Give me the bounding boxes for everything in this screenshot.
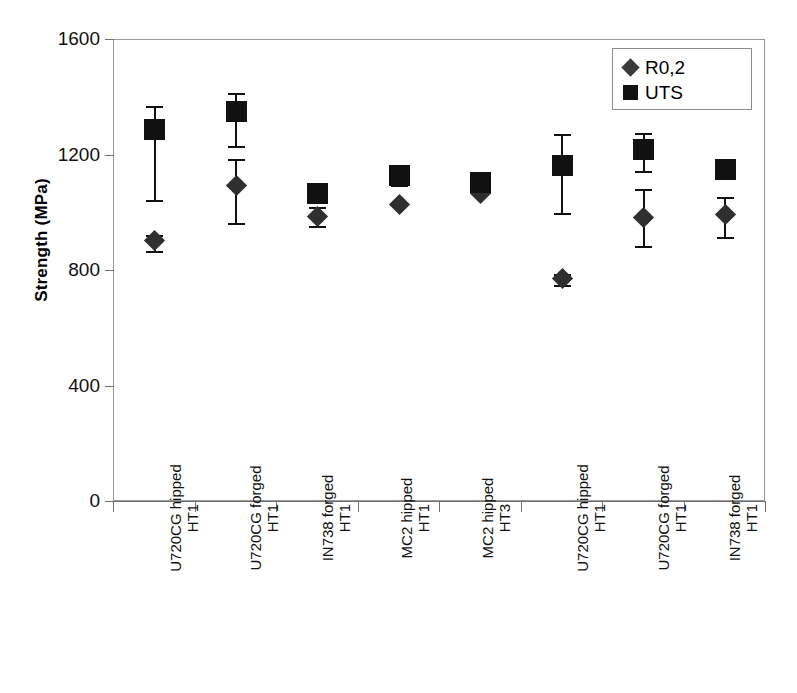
error-bar-cap-bottom (228, 223, 245, 225)
error-bar-cap-bottom (146, 200, 163, 202)
x-axis-category-label: IN738 forgedHT1 (276, 512, 358, 553)
y-axis-tick (105, 501, 114, 502)
chart-legend: R0,2 UTS (612, 48, 752, 110)
x-axis-category-label: U720CG forgedHT1 (602, 512, 684, 553)
error-bar-cap-bottom (635, 246, 652, 248)
error-bar-cap-bottom (228, 146, 245, 148)
x-axis-tick (521, 502, 522, 512)
diamond-marker-icon (621, 58, 639, 76)
square-marker-icon (633, 139, 654, 160)
x-axis-tick (439, 502, 440, 512)
error-bar-cap-top (717, 197, 734, 199)
square-marker-icon (715, 159, 736, 180)
x-axis-tick (113, 502, 114, 512)
x-axis-tick (358, 502, 359, 512)
category-line-2: HT1 (744, 475, 761, 562)
category-line-1: U720CG hipped (167, 464, 184, 572)
y-axis-tick-label: 400 (12, 376, 100, 395)
x-axis-category-label: U720CG hippedHT1 (113, 512, 195, 553)
category-line-1: MC2 hipped (398, 478, 415, 559)
diamond-marker-icon (226, 175, 247, 196)
y-axis-tick (105, 386, 114, 387)
y-axis-tick-label: 1600 (12, 29, 100, 48)
square-marker-icon (144, 119, 165, 140)
error-bar-cap-top (228, 159, 245, 161)
y-axis-tick (105, 155, 114, 156)
diamond-marker-icon (633, 206, 654, 227)
category-line-1: U720CG forged (654, 465, 671, 570)
diamond-marker-icon (389, 193, 410, 214)
chart-figure: Strength (MPa) 040080012001600 U720CG hi… (0, 0, 797, 693)
square-marker-icon (623, 85, 638, 100)
error-bar-cap-top (554, 134, 571, 136)
legend-label: UTS (645, 83, 683, 102)
error-bar-cap-bottom (717, 237, 734, 239)
category-line-2: HT3 (497, 478, 514, 559)
square-marker-icon (226, 101, 247, 122)
square-marker-icon (389, 165, 410, 186)
x-axis-category-label: MC2 hippedHT1 (357, 512, 439, 553)
x-axis-category-label: MC2 hippedHT3 (439, 512, 521, 553)
error-bar-cap-top (635, 133, 652, 135)
y-axis-tick (105, 39, 114, 40)
category-line-2: HT1 (336, 475, 353, 562)
square-marker-icon (307, 183, 328, 204)
error-bar-cap-top (635, 189, 652, 191)
x-axis-tick (765, 502, 766, 512)
y-axis-tick-label: 800 (12, 260, 100, 279)
error-bar-cap-bottom (554, 213, 571, 215)
category-line-1: U720CG forged (247, 465, 264, 570)
y-axis-tick-label: 1200 (12, 145, 100, 164)
category-line-1: IN738 forged (727, 475, 744, 562)
square-marker-icon (552, 155, 573, 176)
error-bar-cap-top (228, 93, 245, 95)
x-axis-category-label: IN738 forgedHT1 (683, 512, 765, 553)
square-marker-icon (470, 172, 491, 193)
legend-item-r02: R0,2 (623, 55, 743, 80)
error-bar-cap-bottom (635, 171, 652, 173)
legend-item-uts: UTS (623, 80, 743, 105)
diamond-marker-icon (144, 230, 165, 251)
category-line-1: IN738 forged (319, 475, 336, 562)
x-axis-category-label: U720CG forgedHT1 (194, 512, 276, 553)
category-line-1: MC2 hipped (480, 478, 497, 559)
y-axis-tick-label: 0 (12, 491, 100, 510)
x-axis-category-label: U720CG hippedHT1 (520, 512, 602, 553)
y-axis-tick-labels: 040080012001600 (0, 0, 100, 693)
legend-label: R0,2 (645, 58, 685, 77)
category-line-1: U720CG hipped (574, 464, 591, 572)
y-axis-tick (105, 270, 114, 271)
error-bar-cap-top (146, 106, 163, 108)
diamond-marker-icon (715, 204, 736, 225)
error-bar-cap-bottom (146, 251, 163, 253)
category-line-2: HT1 (415, 478, 432, 559)
